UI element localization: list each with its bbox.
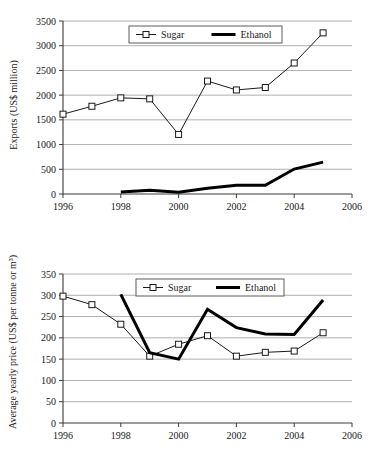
x-tick-label-1996: 1996	[53, 201, 73, 212]
chart-exports: 0500100015002000250030003500199619982000…	[0, 0, 382, 228]
y-tick-label-0: 0	[51, 189, 56, 200]
x-tick-label-2006: 2006	[342, 430, 362, 441]
datapoint-sugar-2000	[176, 341, 182, 347]
legend-label-ethanol: Ethanol	[241, 29, 272, 40]
y-tick-label-2500: 2500	[36, 65, 56, 76]
x-tick-label-2002: 2002	[226, 201, 246, 212]
legend-label-sugar: Sugar	[168, 282, 192, 293]
datapoint-sugar-1996	[60, 293, 66, 299]
prices-y-axis-title: Average yearly price (US$ per tonne or m…	[7, 255, 19, 429]
x-tick-label-2000: 2000	[169, 430, 189, 441]
legend-sugar-marker	[143, 32, 149, 38]
chart-prices: 0501001502002503003501996199820002002200…	[0, 232, 382, 465]
prices-chart-svg: 0501001502002503003501996199820002002200…	[0, 232, 382, 465]
datapoint-sugar-2004	[291, 348, 297, 354]
datapoint-sugar-1997	[89, 103, 95, 109]
prices-legend: SugarEthanol	[136, 279, 284, 296]
legend-label-ethanol: Ethanol	[245, 282, 276, 293]
y-tick-label-0: 0	[51, 418, 56, 429]
y-tick-label-3500: 3500	[36, 16, 56, 27]
exports-series	[60, 30, 326, 192]
x-tick-label-2000: 2000	[169, 201, 189, 212]
y-tick-label-250: 250	[41, 311, 56, 322]
legend-sugar-marker	[150, 285, 156, 291]
datapoint-sugar-2002	[233, 353, 239, 359]
exports-chart-svg: 0500100015002000250030003500199619982000…	[0, 0, 382, 228]
y-tick-label-2000: 2000	[36, 90, 56, 101]
datapoint-sugar-1997	[89, 302, 95, 308]
y-tick-label-100: 100	[41, 375, 56, 386]
x-tick-label-1998: 1998	[111, 201, 131, 212]
x-tick-label-1996: 1996	[53, 430, 73, 441]
x-tick-label-1998: 1998	[111, 430, 131, 441]
y-tick-label-200: 200	[41, 332, 56, 343]
prices-series	[60, 293, 326, 359]
datapoint-sugar-2005	[320, 330, 326, 336]
exports-legend: SugarEthanol	[129, 26, 282, 43]
y-tick-label-1000: 1000	[36, 139, 56, 150]
y-tick-label-3000: 3000	[36, 40, 56, 51]
datapoint-sugar-1998	[118, 95, 124, 101]
y-tick-label-300: 300	[41, 290, 56, 301]
datapoint-sugar-1999	[147, 96, 153, 102]
x-tick-label-2002: 2002	[226, 430, 246, 441]
x-tick-label-2006: 2006	[342, 201, 362, 212]
exports-ticklabels: 0500100015002000250030003500199619982000…	[36, 16, 362, 213]
datapoint-sugar-2000	[176, 131, 182, 137]
y-tick-label-150: 150	[41, 354, 56, 365]
y-tick-label-350: 350	[41, 269, 56, 280]
x-tick-label-2004: 2004	[284, 201, 304, 212]
datapoint-sugar-2005	[320, 30, 326, 36]
datapoint-sugar-1996	[60, 111, 66, 117]
exports-y-axis-title: Exports (US$ million)	[8, 60, 20, 149]
series-line-ethanol	[121, 162, 323, 192]
series-line-sugar	[63, 296, 323, 356]
datapoint-sugar-2002	[233, 87, 239, 93]
datapoint-sugar-2001	[205, 78, 211, 84]
datapoint-sugar-1998	[118, 321, 124, 327]
exports-axes	[59, 21, 352, 198]
datapoint-sugar-2001	[205, 333, 211, 339]
series-line-sugar	[63, 33, 323, 135]
datapoint-sugar-2003	[262, 349, 268, 355]
prices-axes	[59, 274, 352, 427]
datapoint-sugar-2004	[291, 60, 297, 66]
x-tick-label-2004: 2004	[284, 430, 304, 441]
legend-label-sugar: Sugar	[161, 29, 185, 40]
y-tick-label-50: 50	[46, 396, 56, 407]
y-tick-label-500: 500	[41, 164, 56, 175]
datapoint-sugar-2003	[262, 84, 268, 90]
y-tick-label-1500: 1500	[36, 114, 56, 125]
